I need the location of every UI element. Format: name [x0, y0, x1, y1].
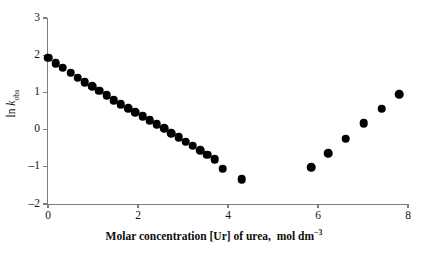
data-point	[395, 90, 404, 99]
x-axis-unit-exponent: −3	[314, 228, 322, 237]
data-point	[237, 175, 246, 184]
data-point	[218, 164, 227, 173]
y-axis-tick	[43, 129, 47, 130]
data-point	[360, 119, 369, 128]
x-axis-tick-label: 2	[126, 209, 150, 221]
x-axis-tick-label: 0	[36, 209, 60, 221]
x-axis-tick-label: 8	[396, 209, 420, 221]
y-axis-title-symbol: k	[5, 101, 17, 106]
x-axis-tick	[47, 204, 48, 208]
y-axis-tick	[43, 203, 47, 204]
x-axis-tick-label: 6	[306, 209, 330, 221]
data-point	[210, 155, 219, 164]
y-axis-title-prefix: ln	[5, 106, 17, 118]
y-axis-tick-label: 3	[18, 11, 40, 23]
y-axis-tick	[43, 166, 47, 167]
y-axis-tick	[43, 92, 47, 93]
y-axis-title: ln kobs	[5, 59, 20, 149]
x-axis-tick	[137, 204, 138, 208]
x-axis-title: Molar concentration [Ur] of urea, mol dm…	[0, 228, 428, 242]
y-axis-tick-label: 0	[18, 122, 40, 134]
y-axis-line	[47, 18, 48, 205]
x-axis-tick	[407, 204, 408, 208]
x-axis-tick-label: 4	[216, 209, 240, 221]
y-axis-tick	[43, 17, 47, 18]
x-axis-tick	[227, 204, 228, 208]
data-point	[307, 163, 316, 172]
scatter-chart: –2–1012302468 Molar concentration [Ur] o…	[0, 0, 428, 255]
y-axis-tick-label: 2	[18, 48, 40, 60]
y-axis-tick-label: –2	[18, 197, 40, 209]
y-axis-tick-label: –1	[18, 159, 40, 171]
data-point	[342, 134, 351, 143]
x-axis-title-main: Molar concentration [Ur] of urea,	[106, 230, 271, 242]
x-axis-title-unit: mol dm−3	[274, 230, 323, 242]
x-axis-unit-prefix: mol dm	[277, 230, 314, 242]
x-axis-tick	[317, 204, 318, 208]
y-axis-tick-label: 1	[18, 85, 40, 97]
data-point	[378, 104, 387, 113]
y-axis-title-subscript: obs	[12, 90, 21, 101]
data-point	[324, 149, 333, 158]
